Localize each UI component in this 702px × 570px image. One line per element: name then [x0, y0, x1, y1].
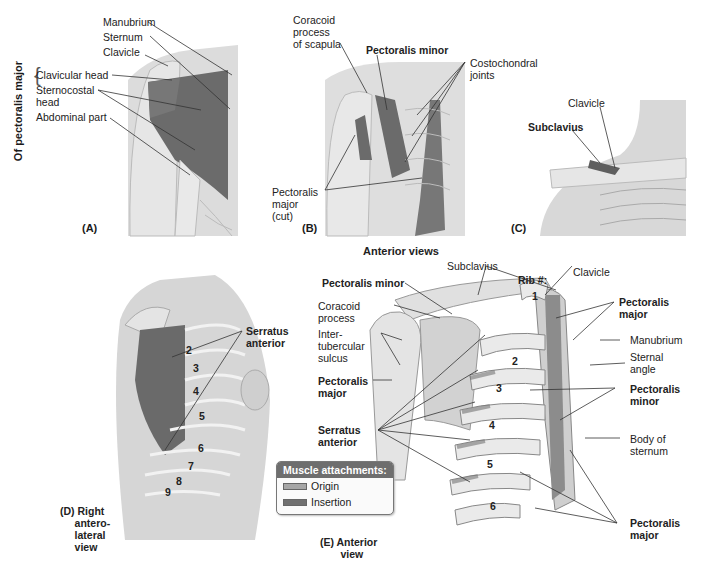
panel-d-caption: (D) Right antero- lateral view: [60, 505, 110, 553]
label-pectoralis-minor-b: Pectoralis minor: [366, 44, 448, 56]
rib-number-e-6: 6: [490, 500, 496, 512]
panel-e-caption: (E) Anterior view: [320, 536, 377, 560]
panel-e-illustration: [370, 278, 575, 525]
rib-number-d-7: 7: [188, 460, 194, 472]
label-manubrium-a: Manubrium: [103, 16, 156, 28]
rib-number-e-5: 5: [487, 458, 493, 470]
rib-number-e-3: 3: [496, 382, 502, 394]
rib-number-e-2: 2: [512, 355, 518, 367]
legend-origin-label: Origin: [311, 480, 339, 492]
label-pectoralis-major-e-right-bottom: Pectoralis major: [630, 517, 680, 541]
label-rib-heading: Rib #:: [518, 274, 547, 286]
label-pectoralis-major-e-left: Pectoralis major: [318, 375, 368, 399]
muscle-attachments-legend: Muscle attachments: Origin Insertion: [276, 461, 394, 515]
label-manubrium-e: Manubrium: [630, 334, 683, 346]
label-clavicle-c: Clavicle: [568, 97, 605, 109]
label-pectoralis-minor-e-right: Pectoralis minor: [630, 383, 680, 407]
rib-number-d-4: 4: [193, 385, 199, 397]
label-coracoid-process-of-scapula: Coracoid process of scapula: [293, 14, 341, 50]
legend-title: Muscle attachments:: [277, 462, 393, 478]
panel-b-illustration: [325, 62, 465, 236]
label-clavicle-e: Clavicle: [573, 266, 610, 278]
label-clavicle-a: Clavicle: [103, 46, 140, 58]
panel-c-letter: (C): [511, 222, 526, 234]
legend-item-insertion: Insertion: [277, 494, 393, 510]
rib-number-e-1: 1: [532, 290, 538, 302]
label-serratus-anterior-e: Serratus anterior: [318, 424, 361, 448]
rib-number-d-6: 6: [198, 442, 204, 454]
rib-number-e-4: 4: [489, 419, 495, 431]
rib-number-d-3: 3: [193, 362, 199, 374]
label-intertubercular-sulcus: Inter- tubercular sulcus: [318, 328, 365, 364]
panel-a-letter: (A): [82, 222, 97, 234]
label-costochondral-joints: Costochondral joints: [470, 57, 538, 81]
panel-a-illustration: [128, 45, 238, 236]
legend-item-origin: Origin: [277, 478, 393, 494]
label-serratus-anterior-d: Serratus anterior: [246, 325, 289, 349]
rib-number-d-9: 9: [165, 486, 171, 498]
rib-number-d-2: 2: [186, 344, 192, 356]
label-sternum-a: Sternum: [103, 31, 143, 43]
label-sternocostal-head: Sternocostal head: [36, 84, 94, 108]
label-clavicular-head: Clavicular head: [36, 69, 108, 81]
origin-swatch-icon: [283, 483, 307, 490]
panel-b-letter: (B): [302, 222, 317, 234]
label-pectoralis-minor-e-top: Pectoralis minor: [322, 277, 404, 289]
legend-insertion-label: Insertion: [311, 496, 351, 508]
label-sternal-angle: Sternal angle: [630, 351, 663, 375]
anterior-views-caption: Anterior views: [363, 245, 439, 257]
insertion-swatch-icon: [283, 499, 307, 506]
panel-d-illustration: [116, 275, 270, 540]
rib-number-d-8: 8: [176, 475, 182, 487]
label-pectoralis-major-cut: Pectoralis major (cut): [272, 186, 318, 222]
rib-number-d-5: 5: [199, 410, 205, 422]
label-subclavius-c: Subclavius: [528, 121, 583, 133]
pectoralis-major-group-label: Of pectoralis major: [12, 61, 24, 161]
label-body-of-sternum: Body of sternum: [630, 433, 668, 457]
label-coracoid-process-e: Coracoid process: [318, 300, 360, 324]
label-pectoralis-major-e-right-top: Pectoralis major: [619, 296, 669, 320]
label-abdominal-part: Abdominal part: [36, 111, 107, 123]
label-subclavius-e: Subclavius: [447, 260, 498, 272]
